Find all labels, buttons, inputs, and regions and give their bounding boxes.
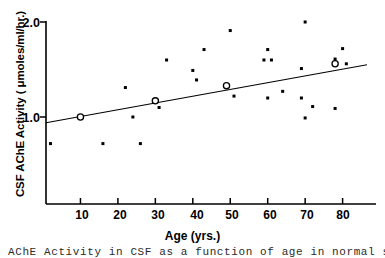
data-point-mean	[152, 98, 158, 104]
data-point	[304, 21, 307, 24]
data-point	[266, 97, 269, 100]
data-point	[345, 62, 348, 65]
data-point	[281, 90, 284, 93]
data-point	[232, 95, 235, 98]
data-point-mean	[332, 61, 338, 67]
data-point	[334, 107, 337, 110]
data-point	[341, 47, 344, 50]
data-point	[101, 142, 104, 145]
data-point	[203, 48, 206, 51]
data-point	[124, 86, 127, 89]
regression-line	[46, 65, 367, 123]
data-point	[311, 105, 314, 108]
data-point	[165, 59, 168, 62]
data-point	[195, 78, 198, 81]
data-point-mean	[223, 83, 229, 89]
data-point	[300, 67, 303, 70]
y-axis-ticks	[40, 22, 46, 117]
regression-line-path	[46, 65, 367, 123]
figure-caption: AChE Activity in CSF as a function of ag…	[8, 246, 385, 258]
data-point	[131, 116, 134, 119]
data-point	[304, 116, 307, 119]
data-point	[270, 59, 273, 62]
data-point	[229, 29, 232, 32]
data-point	[191, 69, 194, 72]
data-point	[300, 97, 303, 100]
data-point	[49, 142, 52, 145]
x-axis-ticks	[80, 198, 342, 204]
data-points-subjects	[49, 21, 348, 146]
data-points-decade-means	[77, 61, 338, 120]
data-point	[266, 48, 269, 51]
data-point	[158, 106, 161, 109]
data-point	[139, 142, 142, 145]
data-point-mean	[77, 114, 83, 120]
data-point	[262, 59, 265, 62]
axis-lines	[46, 21, 376, 204]
